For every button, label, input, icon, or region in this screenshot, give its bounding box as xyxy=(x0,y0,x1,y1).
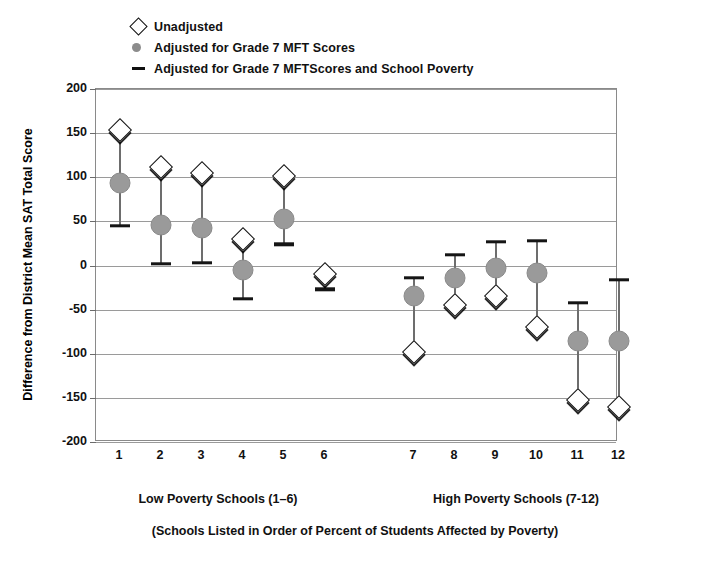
dash-marker-icon xyxy=(132,67,154,70)
chart-legend: Unadjusted Adjusted for Grade 7 MFT Scor… xyxy=(132,16,474,79)
data-point-adjusted-mft xyxy=(568,330,589,351)
x-axis-tick-label: 3 xyxy=(198,448,205,462)
data-point-adjusted-mft xyxy=(486,258,507,279)
data-series-layer xyxy=(96,89,616,440)
y-axis-tick-label: 150 xyxy=(45,125,87,139)
data-point-adjusted-mft xyxy=(527,263,548,284)
data-point-adjusted-mft xyxy=(151,214,172,235)
data-point-adjusted-mft-poverty xyxy=(151,262,171,265)
x-axis-tick-label: 6 xyxy=(321,448,328,462)
y-axis-tick-label: 0 xyxy=(45,258,87,272)
x-axis-tick-label: 4 xyxy=(239,448,246,462)
data-point-adjusted-mft-poverty xyxy=(486,240,506,243)
data-point-adjusted-mft-poverty xyxy=(568,301,588,304)
data-point-adjusted-mft-poverty xyxy=(404,276,424,279)
x-axis-tick-label: 11 xyxy=(570,448,583,462)
legend-label: Adjusted for Grade 7 MFTScores and Schoo… xyxy=(154,62,474,76)
data-point-adjusted-mft xyxy=(233,259,254,280)
x-axis-tick-label: 7 xyxy=(410,448,417,462)
group-label-low-poverty: Low Poverty Schools (1–6) xyxy=(138,492,297,506)
data-point-unadjusted xyxy=(235,231,252,248)
y-axis-tick xyxy=(90,442,96,443)
data-point-unadjusted xyxy=(570,391,587,408)
data-point-adjusted-mft xyxy=(609,330,630,351)
legend-label: Adjusted for Grade 7 MFT Scores xyxy=(154,41,355,55)
data-point-adjusted-mft-poverty xyxy=(233,297,253,300)
chart-root: Unadjusted Adjusted for Grade 7 MFT Scor… xyxy=(0,0,710,570)
data-point-unadjusted xyxy=(529,319,546,336)
data-point-unadjusted xyxy=(112,122,129,139)
data-point-unadjusted xyxy=(611,398,628,415)
group-label-high-poverty: High Poverty Schools (7-12) xyxy=(433,492,599,506)
y-axis-tick-label: 200 xyxy=(45,81,87,95)
data-point-adjusted-mft xyxy=(404,285,425,306)
legend-label: Unadjusted xyxy=(154,20,223,34)
data-point-adjusted-mft xyxy=(445,267,466,288)
diamond-marker-icon xyxy=(132,20,154,33)
y-axis-tick-label: 100 xyxy=(45,169,87,183)
data-point-adjusted-mft xyxy=(110,173,131,194)
data-point-unadjusted xyxy=(317,266,334,283)
data-point-unadjusted xyxy=(194,164,211,181)
legend-item-adjusted-mft-poverty: Adjusted for Grade 7 MFTScores and Schoo… xyxy=(132,58,474,79)
x-axis-tick-label: 8 xyxy=(451,448,458,462)
data-point-adjusted-mft-poverty xyxy=(192,261,212,264)
y-axis-tick-label: -200 xyxy=(45,434,87,448)
data-point-unadjusted xyxy=(153,158,170,175)
y-axis-tick-label: 50 xyxy=(45,213,87,227)
data-point-adjusted-mft-poverty xyxy=(274,243,294,246)
data-point-adjusted-mft xyxy=(192,217,213,238)
y-axis-title-box: Difference from District Mean SAT Total … xyxy=(18,88,38,441)
gridline xyxy=(96,442,616,443)
x-axis-tick-label: 5 xyxy=(280,448,287,462)
x-axis-tick-label: 12 xyxy=(611,448,625,462)
x-axis-tick-label: 1 xyxy=(116,448,123,462)
y-axis-tick-label: -100 xyxy=(45,346,87,360)
x-axis-tick-label: 10 xyxy=(529,448,543,462)
data-point-adjusted-mft-poverty xyxy=(110,224,130,227)
data-point-adjusted-mft-poverty xyxy=(609,278,629,281)
plot-area xyxy=(95,88,617,441)
x-axis-tick-label: 2 xyxy=(157,448,164,462)
chart-footnote: (Schools Listed in Order of Percent of S… xyxy=(0,524,710,538)
data-point-unadjusted xyxy=(406,343,423,360)
data-point-adjusted-mft-poverty xyxy=(315,288,335,291)
data-point-adjusted-mft-poverty xyxy=(445,253,465,256)
data-point-adjusted-mft-poverty xyxy=(527,239,547,242)
data-point-adjusted-mft xyxy=(274,208,295,229)
data-point-unadjusted xyxy=(447,297,464,314)
data-point-unadjusted xyxy=(488,287,505,304)
range-stem xyxy=(577,303,578,400)
legend-item-adjusted-mft: Adjusted for Grade 7 MFT Scores xyxy=(132,37,474,58)
x-axis-tick-label: 9 xyxy=(492,448,499,462)
y-axis-tick-label: -150 xyxy=(45,390,87,404)
data-point-unadjusted xyxy=(276,168,293,185)
legend-item-unadjusted: Unadjusted xyxy=(132,16,474,37)
y-axis-title: Difference from District Mean SAT Total … xyxy=(18,88,38,441)
circle-marker-icon xyxy=(132,43,154,52)
y-axis-tick-label: -50 xyxy=(45,302,87,316)
